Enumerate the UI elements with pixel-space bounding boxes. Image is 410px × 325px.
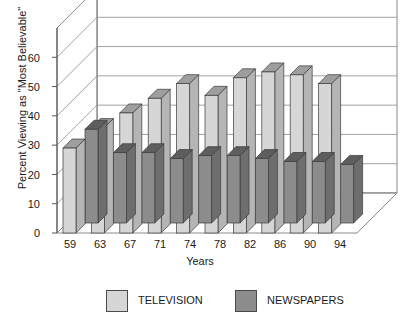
plot-area bbox=[0, 0, 410, 325]
chart-legend: TELEVISION NEWSPAPERS bbox=[0, 288, 410, 320]
legend-label-newspapers: NEWSPAPERS bbox=[267, 294, 344, 306]
chart-container: Credibility of News Media Percent Viewin… bbox=[0, 0, 410, 325]
legend-label-television: TELEVISION bbox=[138, 294, 203, 306]
legend-swatch-newspapers bbox=[235, 290, 257, 312]
legend-swatch-television bbox=[106, 290, 128, 312]
